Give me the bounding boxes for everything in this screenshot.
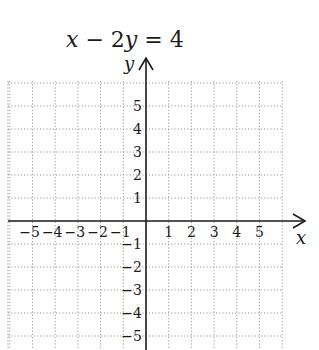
- y-tick-label: 5: [133, 98, 142, 114]
- x-tick-label: 4: [232, 224, 241, 240]
- x-tick-label: −4: [42, 224, 63, 240]
- y-tick-label: 1: [133, 190, 142, 206]
- y-tick-label: −4: [121, 305, 142, 321]
- x-tick-label: −5: [19, 224, 40, 240]
- x-axis-label: x: [296, 227, 306, 248]
- y-tick-label: 2: [133, 167, 142, 183]
- x-tick-label: 1: [164, 224, 173, 240]
- x-tick-label: 3: [210, 224, 219, 240]
- y-tick-label: −3: [121, 282, 142, 298]
- y-axis-label: y: [123, 53, 135, 74]
- x-tick-label: −2: [87, 224, 108, 240]
- y-tick-label: 3: [133, 144, 142, 160]
- x-tick-label: 2: [187, 224, 196, 240]
- x-tick-label: 5: [255, 224, 264, 240]
- y-tick-label: 4: [133, 121, 142, 137]
- coordinate-plane: xy−5−4−3−2−11234554321−1−2−3−4−5: [0, 0, 319, 350]
- y-tick-label: −2: [121, 259, 142, 275]
- y-tick-label: −1: [121, 236, 142, 252]
- x-tick-label: −3: [65, 224, 86, 240]
- y-tick-label: −5: [121, 328, 142, 344]
